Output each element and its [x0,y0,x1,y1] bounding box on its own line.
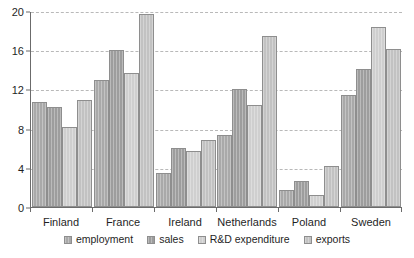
bar [247,105,262,207]
x-tick-mark [401,208,402,212]
x-tick-label-text: Poland [292,216,326,228]
bar [232,89,247,207]
bar [262,36,277,208]
bar-groups [31,12,402,207]
bar [324,166,339,207]
bar [186,151,201,207]
x-tick-label-text: France [106,216,140,228]
y-tick-label: 4 [18,163,24,174]
x-tick-label: France [92,208,154,230]
bar [62,127,77,207]
bar [371,27,386,207]
bar [156,173,171,207]
x-tick-mark [340,208,341,212]
bar [201,140,216,207]
legend-label: R&D expenditure [210,234,290,245]
bar [217,135,232,207]
bar-group [93,12,155,207]
legend-swatch-icon [198,236,206,244]
bar [341,95,356,207]
bar [356,69,371,207]
legend-label: exports [316,234,350,245]
x-tick-mark [154,208,155,212]
x-tick-mark [278,208,279,212]
bar [171,148,186,207]
bar-group [155,12,217,207]
bar [32,102,47,207]
legend-label: sales [159,234,184,245]
x-axis: FinlandFranceIrelandNetherlandsPolandSwe… [30,208,402,230]
x-tick-label: Poland [278,208,340,230]
legend: employmentsalesR&D expenditureexports [0,234,414,245]
bar-group [31,12,93,207]
y-tick-label: 0 [18,203,24,214]
x-tick-label: Netherlands [216,208,278,230]
legend-swatch-icon [64,236,72,244]
y-tick-label: 20 [12,7,24,18]
x-tick-label-text: Ireland [168,216,202,228]
bar [279,190,294,207]
bar-group [278,12,340,207]
x-tick-label-text: Netherlands [217,216,276,228]
y-tick-label: 16 [12,46,24,57]
x-tick-label: Sweden [340,208,402,230]
bar [309,195,324,207]
legend-label: employment [76,234,133,245]
x-tick-mark [216,208,217,212]
bar [124,73,139,207]
bar [109,50,124,207]
legend-item[interactable]: sales [147,234,184,245]
y-tick-label: 12 [12,85,24,96]
bar [47,107,62,207]
legend-item[interactable]: employment [64,234,133,245]
bar [386,49,401,207]
x-tick-label-text: Sweden [351,216,391,228]
plot-area [30,12,402,208]
bar [77,100,92,207]
legend-swatch-icon [304,236,312,244]
legend-swatch-icon [147,236,155,244]
x-tick-label-text: Finland [43,216,79,228]
x-tick-label: Ireland [154,208,216,230]
bar [94,80,109,207]
y-tick-label: 8 [18,124,24,135]
x-tick-mark [30,208,31,212]
bar-group [216,12,278,207]
legend-item[interactable]: R&D expenditure [198,234,290,245]
bar [294,181,309,207]
bar-chart: 048121620 FinlandFranceIrelandNetherland… [0,0,414,258]
legend-item[interactable]: exports [304,234,350,245]
x-tick-label: Finland [30,208,92,230]
y-axis: 048121620 [0,12,30,208]
bar [139,14,154,207]
bar-group [340,12,402,207]
x-tick-mark [92,208,93,212]
